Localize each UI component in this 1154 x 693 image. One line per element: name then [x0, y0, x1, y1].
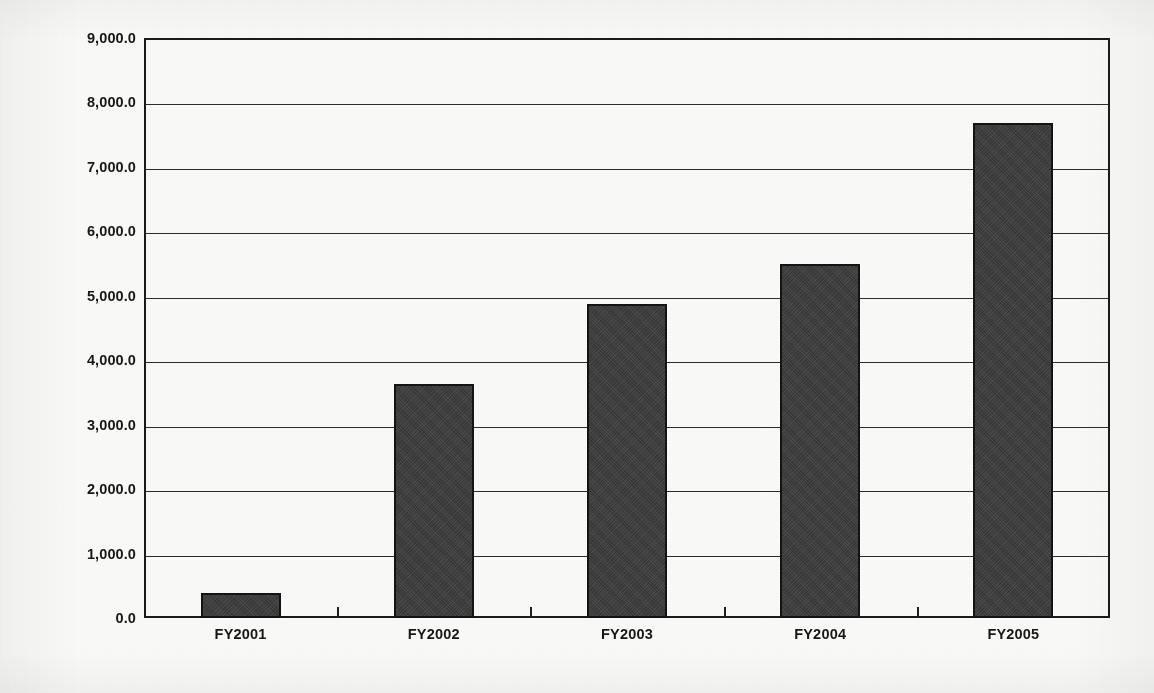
- y-axis-tick-label: 5,000.0: [50, 288, 136, 304]
- bar: [587, 304, 667, 618]
- x-axis-tick: [724, 607, 726, 618]
- x-axis-tick-labels: FY2001FY2002FY2003FY2004FY2005: [144, 626, 1110, 656]
- x-axis-tick: [530, 607, 532, 618]
- bar: [973, 123, 1053, 618]
- bar: [780, 264, 860, 618]
- y-axis-tick-label: 3,000.0: [50, 417, 136, 433]
- x-axis-tick: [337, 607, 339, 618]
- y-axis-tick-label: 9,000.0: [50, 30, 136, 46]
- x-axis-tick-label: FY2004: [794, 626, 846, 642]
- bar-chart-figure: Amount (in $ millions) 0.01,000.02,000.0…: [0, 0, 1154, 693]
- y-axis-tick-label: 6,000.0: [50, 223, 136, 239]
- y-axis-tick-label: 0.0: [50, 610, 136, 626]
- bar: [394, 384, 474, 618]
- x-axis-tick: [917, 607, 919, 618]
- bars-layer: [144, 38, 1110, 618]
- x-axis-tick-label: FY2005: [987, 626, 1039, 642]
- y-axis-tick-labels: 0.01,000.02,000.03,000.04,000.05,000.06,…: [48, 0, 136, 693]
- x-axis-tick-label: FY2003: [601, 626, 653, 642]
- x-axis-tick-label: FY2002: [408, 626, 460, 642]
- y-axis-tick-label: 7,000.0: [50, 159, 136, 175]
- bar: [201, 593, 281, 618]
- y-axis-tick-label: 8,000.0: [50, 94, 136, 110]
- x-axis-tick-label: FY2001: [215, 626, 267, 642]
- y-axis-tick-label: 4,000.0: [50, 352, 136, 368]
- y-axis-tick-label: 1,000.0: [50, 546, 136, 562]
- y-axis-tick-label: 2,000.0: [50, 481, 136, 497]
